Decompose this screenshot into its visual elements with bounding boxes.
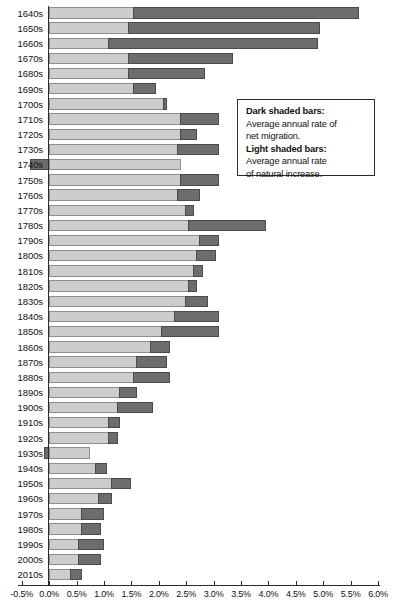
legend-dark-line1: Average annual rate of [246,118,367,131]
bar-net-migration-1860s [150,341,170,352]
y-axis-label-1950s: 1950s [0,478,43,489]
bar-net-migration-1840s [174,311,219,322]
bar-net-migration-2000s [78,554,101,565]
bar-natural-increase-1730s [49,144,178,155]
bar-natural-increase-1910s [49,417,109,428]
y-axis-label-1760s: 1760s [0,190,43,201]
bar-net-migration-1970s [81,508,104,519]
x-axis-tick-2.5% [186,581,187,585]
y-axis-label-1790s: 1790s [0,235,43,246]
x-axis-tick-3.0% [214,581,215,585]
y-axis-label-1830s: 1830s [0,296,43,307]
y-axis-label-1840s: 1840s [0,311,43,322]
bar-net-migration-1780s [188,220,266,231]
bar-net-migration-1700s [163,98,167,109]
y-axis-label-1710s: 1710s [0,114,43,125]
x-axis-tick-0.5% [77,581,78,585]
bar-natural-increase-1860s [49,341,150,352]
y-axis-label-1960s: 1960s [0,493,43,504]
y-axis-label-2000s: 2000s [0,554,43,565]
bar-net-migration-1960s [98,493,113,504]
y-axis-label-1740s: 1740s [0,159,43,170]
bar-natural-increase-2010s [49,569,71,580]
bar-natural-increase-1820s [49,280,189,291]
y-axis-label-1700s: 1700s [0,99,43,110]
y-axis-label-1640s: 1640s [0,8,43,19]
bar-net-migration-1990s [78,539,104,550]
bar-net-migration-1640s [133,7,359,18]
bar-net-migration-1890s [119,387,136,398]
bar-net-migration-1940s [95,463,107,474]
y-axis-label-1940s: 1940s [0,463,43,474]
bar-natural-increase-1800s [49,250,197,261]
y-axis-label-1920s: 1920s [0,433,43,444]
zero-baseline [48,6,49,585]
bar-net-migration-1710s [180,113,219,124]
bar-natural-increase-1810s [49,265,194,276]
bar-net-migration-1680s [128,68,206,79]
bar-natural-increase-1940s [49,463,96,474]
y-axis-label-1990s: 1990s [0,539,43,550]
bar-natural-increase-1850s [49,326,161,337]
y-axis-label-1970s: 1970s [0,509,43,520]
y-axis-label-1810s: 1810s [0,266,43,277]
legend-light-heading: Light shaded bars: [246,143,367,156]
bar-net-migration-1660s [108,38,317,49]
bar-net-migration-2010s [70,569,82,580]
y-axis-label-1750s: 1750s [0,175,43,186]
bar-natural-increase-1870s [49,356,137,367]
bar-natural-increase-1960s [49,493,98,504]
bar-natural-increase-1660s [49,38,109,49]
x-axis-tick-4.0% [268,581,269,585]
bar-net-migration-1770s [185,205,194,216]
bar-net-migration-1750s [180,174,219,185]
bar-natural-increase-1970s [49,508,82,519]
y-axis-label-1720s: 1720s [0,129,43,140]
bar-natural-increase-1650s [49,22,128,33]
bar-net-migration-1980s [81,523,101,534]
y-axis-label-1860s: 1860s [0,342,43,353]
bar-natural-increase-1720s [49,129,181,140]
bar-net-migration-1650s [128,22,321,33]
bar-natural-increase-1780s [49,220,189,231]
bar-net-migration-1880s [133,372,170,383]
legend-dark-heading: Dark shaded bars: [246,105,367,118]
bar-net-migration-1850s [161,326,220,337]
y-axis-label-1880s: 1880s [0,372,43,383]
bar-net-migration-1800s [196,250,216,261]
bar-natural-increase-1680s [49,68,128,79]
y-axis-label-1820s: 1820s [0,281,43,292]
bar-natural-increase-1920s [49,432,109,443]
bar-natural-increase-2000s [49,554,79,565]
y-axis-label-1890s: 1890s [0,387,43,398]
bar-natural-increase-1840s [49,311,175,322]
bar-net-migration-1690s [133,83,156,94]
y-axis-label-1670s: 1670s [0,53,43,64]
bar-natural-increase-1740s [49,159,181,170]
y-axis-label-1650s: 1650s [0,23,43,34]
y-axis-label-1800s: 1800s [0,250,43,261]
x-axis-tick-2.0% [159,581,160,585]
bar-natural-increase-1900s [49,402,118,413]
x-axis-tick-0.0% [49,581,50,585]
y-axis-label-1780s: 1780s [0,220,43,231]
x-axis-tick-6.0% [378,581,379,585]
y-axis-label-1660s: 1660s [0,38,43,49]
bar-natural-increase-1640s [49,7,134,18]
legend-light-line1: Average annual rate [246,155,367,168]
bar-natural-increase-1760s [49,189,178,200]
x-axis-tick--0.5% [22,581,23,585]
bar-natural-increase-1990s [49,539,79,550]
legend-light-line2: of natural increase. [246,168,367,181]
bar-natural-increase-1830s [49,296,186,307]
migration-natural-increase-chart: Dark shaded bars: Average annual rate of… [0,0,394,602]
bar-natural-increase-1890s [49,387,120,398]
x-axis-tick-5.0% [323,581,324,585]
y-axis-label-1850s: 1850s [0,326,43,337]
bar-net-migration-1760s [177,189,200,200]
bar-net-migration-1720s [180,129,197,140]
x-axis-tick-1.0% [104,581,105,585]
y-axis-label-1980s: 1980s [0,524,43,535]
y-axis-label-1870s: 1870s [0,357,43,368]
bar-natural-increase-1980s [49,523,82,534]
